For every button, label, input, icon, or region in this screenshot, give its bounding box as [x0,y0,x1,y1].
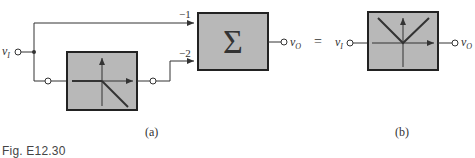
part-a-label: (a) [145,125,158,140]
block-output-terminal [150,78,156,84]
output-terminal-a [281,39,287,45]
diagram-a: Σ −1 −2 [15,8,287,110]
output-label-b: vO [461,35,472,51]
output-label-a: vO [290,35,301,51]
block-input-terminal [45,78,51,84]
input-terminal-b [347,40,353,46]
figure-caption: Fig. E12.30 [2,144,66,158]
output-terminal-b [452,40,458,46]
equals-sign: = [314,34,322,50]
diagram-b [347,12,458,70]
part-b-label: (b) [395,125,409,140]
gain-bottom-label: −2 [179,47,191,59]
gain-top-label: −1 [179,8,191,20]
input-label-b: vI [335,35,343,51]
input-label-a: vI [2,44,10,60]
input-terminal-a [15,49,21,55]
sigma-symbol: Σ [223,23,243,60]
